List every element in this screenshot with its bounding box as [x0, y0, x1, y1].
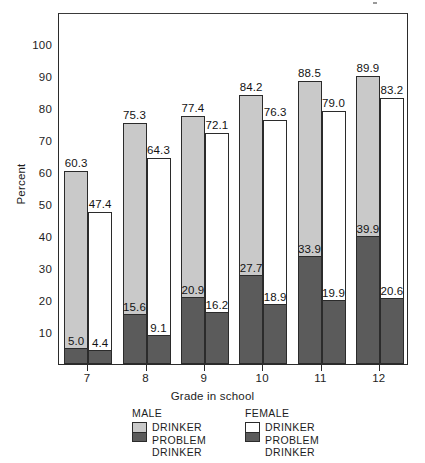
bar-male-grade-12: 89.939.9 [356, 12, 380, 364]
x-tick-mark [321, 365, 322, 371]
x-tick-mark [87, 365, 88, 371]
legend-group-female: FEMALE DRINKER PROBLEM DRINKER [245, 407, 319, 459]
bar-male-grade-12-total-label: 89.9 [356, 62, 379, 74]
bar-female-grade-11-problem-segment [322, 300, 346, 364]
y-tick-label: 90 [39, 71, 52, 83]
bar-male-grade-10-total-label: 84.2 [240, 81, 263, 93]
bar-male-grade-11-problem-segment [298, 256, 322, 364]
legend-label-female-drinker: DRINKER [265, 421, 319, 434]
bar-male-grade-9-problem-label: 20.9 [181, 284, 204, 296]
bar-male-grade-9-problem-segment [181, 297, 205, 364]
scan-artifact [373, 2, 377, 4]
bar-female-grade-9-total-label: 72.1 [205, 119, 228, 131]
legend-swatch-female-drinker [246, 423, 259, 432]
chart-legend: MALE DRINKER PROBLEM DRINKER FEMALE [132, 407, 362, 463]
bar-female-grade-12-problem-segment [380, 298, 404, 364]
legend-swatch-male [132, 422, 147, 442]
legend-label-male-problem-1: PROBLEM [152, 434, 206, 447]
y-tick-label: 80 [39, 103, 52, 115]
bar-female-grade-12-total-label: 83.2 [380, 84, 403, 96]
bar-male-grade-10-problem-segment [239, 275, 263, 364]
x-tick-label-grade-8: 8 [142, 372, 149, 384]
legend-label-female-problem-2: DRINKER [265, 446, 319, 459]
legend-swatch-male-problem [133, 432, 146, 441]
legend-swatch-female-problem [246, 432, 259, 441]
bar-male-grade-8-problem-label: 15.6 [123, 301, 146, 313]
bar-male-grade-8-problem-segment [123, 314, 147, 364]
bar-female-grade-12-problem-label: 20.6 [380, 285, 403, 297]
x-tick-label-grade-12: 12 [372, 372, 385, 384]
x-tick-mark [146, 365, 147, 371]
bar-male-grade-11-total-label: 88.5 [298, 67, 321, 79]
bar-male-grade-7-problem-segment [64, 348, 88, 364]
bar-female-grade-8-total-label: 64.3 [147, 144, 170, 156]
legend-label-male-problem-2: DRINKER [152, 446, 206, 459]
bar-female-grade-8-problem-segment [147, 335, 171, 364]
bar-female-grade-7-problem-segment [88, 350, 112, 364]
bar-male-grade-8-total-label: 75.3 [123, 109, 146, 121]
bar-female-grade-11-total-label: 79.0 [322, 97, 345, 109]
x-axis-title: Grade in school [0, 390, 425, 402]
bar-female-grade-8-problem-label: 9.1 [150, 322, 166, 334]
y-tick-label: 100 [32, 39, 52, 51]
legend-body-male: DRINKER PROBLEM DRINKER [132, 421, 206, 459]
legend-group-male: MALE DRINKER PROBLEM DRINKER [132, 407, 206, 459]
bar-male-grade-7-problem-label: 5.0 [68, 335, 84, 347]
bar-male-grade-11-problem-label: 33.9 [298, 243, 321, 255]
bar-male-grade-11: 88.533.9 [298, 12, 322, 364]
plot-frame: 60.35.047.44.475.315.664.39.177.420.972.… [58, 13, 408, 365]
bar-female-grade-10-problem-label: 18.9 [264, 291, 287, 303]
legend-heading-female: FEMALE [245, 407, 319, 419]
x-tick-label-grade-10: 10 [256, 372, 269, 384]
bar-female-grade-10-problem-segment [263, 304, 287, 364]
legend-swatch-male-drinker [133, 423, 146, 432]
y-tick-label: 50 [39, 199, 52, 211]
legend-labels-male: DRINKER PROBLEM DRINKER [152, 421, 206, 459]
x-tick-mark [204, 365, 205, 371]
bar-female-grade-11-problem-label: 19.9 [322, 287, 345, 299]
legend-swatch-female [245, 422, 260, 442]
bar-male-grade-12-problem-segment [356, 236, 380, 364]
bar-female-grade-7: 47.44.4 [88, 12, 112, 364]
y-axis-tick-labels: 102030405060708090100 [14, 13, 52, 365]
y-tick-label: 20 [39, 295, 52, 307]
bar-male-grade-9: 77.420.9 [181, 12, 205, 364]
bar-female-grade-7-total-label: 47.4 [89, 198, 112, 210]
bar-female-grade-7-problem-label: 4.4 [92, 337, 108, 349]
bar-female-grade-12: 83.220.6 [380, 12, 404, 364]
bar-male-grade-8: 75.315.6 [123, 12, 147, 364]
legend-label-female-problem-1: PROBLEM [265, 434, 319, 447]
bar-female-grade-9-problem-label: 16.2 [205, 299, 228, 311]
y-tick-label: 30 [39, 263, 52, 275]
y-tick-label: 10 [39, 327, 52, 339]
bar-female-grade-8: 64.39.1 [147, 12, 171, 364]
bar-male-grade-10: 84.227.7 [239, 12, 263, 364]
legend-heading-male: MALE [132, 407, 206, 419]
x-tick-label-grade-9: 9 [201, 372, 208, 384]
bar-male-grade-12-problem-label: 39.9 [356, 223, 379, 235]
bar-female-grade-9: 72.116.2 [205, 12, 229, 364]
legend-body-female: DRINKER PROBLEM DRINKER [245, 421, 319, 459]
bar-female-grade-9-problem-segment [205, 312, 229, 364]
bar-male-grade-9-total-label: 77.4 [181, 102, 204, 114]
bar-male-grade-7-total-label: 60.3 [65, 157, 88, 169]
x-tick-label-grade-11: 11 [314, 372, 326, 384]
bar-female-grade-11: 79.019.9 [322, 12, 346, 364]
y-tick-label: 60 [39, 167, 52, 179]
bar-female-grade-10-total-label: 76.3 [264, 106, 287, 118]
bar-male-grade-7: 60.35.0 [64, 12, 88, 364]
chart-figure: Percent 102030405060708090100 60.35.047.… [0, 0, 425, 463]
x-tick-mark [379, 365, 380, 371]
y-tick-label: 70 [39, 135, 52, 147]
legend-label-male-drinker: DRINKER [152, 421, 206, 434]
plot-area: 60.35.047.44.475.315.664.39.177.420.972.… [59, 14, 407, 364]
bar-male-grade-10-problem-label: 27.7 [240, 262, 263, 274]
x-tick-label-grade-7: 7 [84, 372, 91, 384]
bar-female-grade-10: 76.318.9 [263, 12, 287, 364]
y-tick-label: 40 [39, 231, 52, 243]
x-tick-mark [262, 365, 263, 371]
legend-labels-female: DRINKER PROBLEM DRINKER [265, 421, 319, 459]
